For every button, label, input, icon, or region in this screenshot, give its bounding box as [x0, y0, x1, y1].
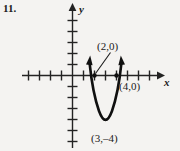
root-left-leader-line: [96, 53, 111, 74]
y-axis-arrow-icon: [69, 3, 77, 11]
curve-right-arrow-icon: [118, 56, 125, 66]
y-axis-label: y: [77, 3, 84, 15]
root-right-label: (4,0): [119, 81, 140, 92]
x-axis-label: x: [163, 76, 170, 88]
root-point-left-marker: [92, 73, 96, 77]
figure-container: 11.: [0, 0, 180, 151]
curve-left-arrow-icon: [86, 56, 93, 66]
root-point-right-marker: [114, 73, 118, 77]
coordinate-plane: y x: [0, 0, 180, 151]
vertex-label: (3,–4): [91, 133, 118, 144]
root-left-label: (2,0): [97, 41, 118, 52]
